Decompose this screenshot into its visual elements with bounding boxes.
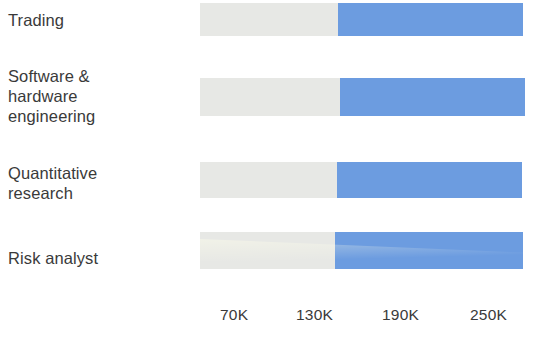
x-tick-label-70k: 70K bbox=[220, 306, 248, 324]
bar-track bbox=[200, 3, 523, 36]
bar-fill-risk-analyst bbox=[335, 232, 523, 269]
salary-range-bar-chart: Trading Software & hardware engineering … bbox=[0, 0, 540, 344]
bar-track bbox=[200, 78, 525, 116]
bar-fill-trading bbox=[338, 3, 523, 36]
bar-fill-quantitative-research bbox=[337, 162, 522, 198]
bar-track bbox=[200, 232, 523, 269]
x-tick-label-250k: 250K bbox=[470, 306, 507, 324]
x-axis: 70K 130K 190K 250K bbox=[0, 306, 540, 330]
x-tick-label-130k: 130K bbox=[296, 306, 333, 324]
plot-area: Trading Software & hardware engineering … bbox=[0, 0, 540, 300]
category-label-risk-analyst: Risk analyst bbox=[8, 248, 193, 268]
category-label-software-hardware-engineering: Software & hardware engineering bbox=[8, 66, 193, 126]
bar-fill-software-hardware-engineering bbox=[340, 78, 525, 116]
category-label-quantitative-research: Quantitative research bbox=[8, 163, 193, 203]
x-tick-label-190k: 190K bbox=[382, 306, 419, 324]
bar-track bbox=[200, 162, 522, 198]
category-label-trading: Trading bbox=[8, 10, 193, 30]
